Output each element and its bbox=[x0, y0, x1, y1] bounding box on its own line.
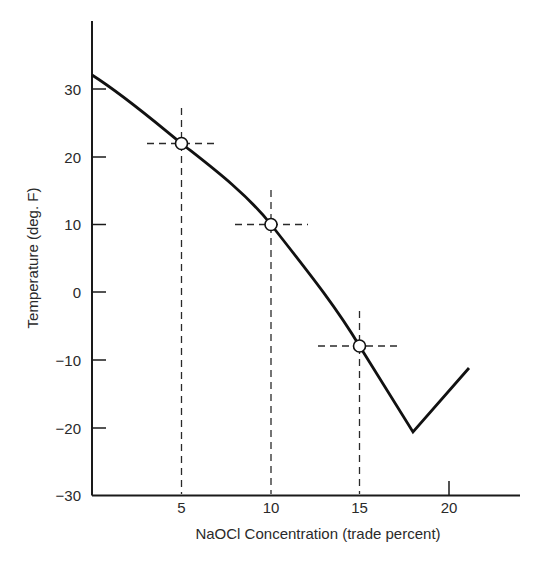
y-tick-label: −20 bbox=[56, 420, 81, 437]
y-tick-label: 10 bbox=[64, 216, 81, 233]
y-tick-label: 20 bbox=[64, 149, 81, 166]
y-tick-label: −10 bbox=[56, 352, 81, 369]
freezing-point-curve bbox=[92, 75, 469, 432]
x-tick-label: 15 bbox=[351, 499, 368, 516]
open-circle-marker bbox=[354, 340, 366, 352]
y-tick-label: −30 bbox=[56, 487, 81, 504]
dashed-guides bbox=[147, 108, 402, 494]
y-tick-label: 0 bbox=[73, 284, 81, 301]
x-tick-label: 10 bbox=[263, 499, 280, 516]
open-circle-marker bbox=[265, 219, 277, 231]
x-tick-label: 20 bbox=[441, 499, 458, 516]
y-ticks bbox=[92, 89, 106, 428]
x-tick-labels: 5 10 15 20 bbox=[177, 499, 457, 516]
x-axis-title: NaOCl Concentration (trade percent) bbox=[195, 525, 440, 542]
y-tick-label: 30 bbox=[64, 81, 81, 98]
chart-canvas: 30 20 10 0 −10 −20 −30 5 10 15 20 NaOCl … bbox=[0, 0, 545, 567]
y-axis-title: Temperature (deg. F) bbox=[24, 188, 41, 329]
y-tick-labels: 30 20 10 0 −10 −20 −30 bbox=[56, 81, 81, 505]
x-tick-label: 5 bbox=[177, 499, 185, 516]
open-circle-marker bbox=[176, 138, 188, 150]
